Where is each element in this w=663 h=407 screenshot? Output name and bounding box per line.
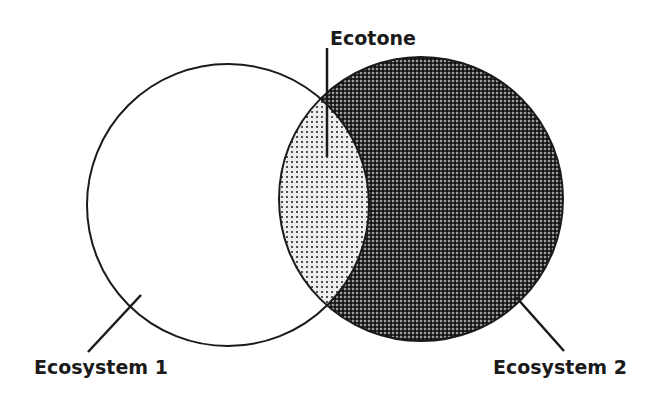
ecosystem-1-leader-line bbox=[88, 295, 141, 352]
ecosystem-1-label: Ecosystem 1 bbox=[34, 356, 168, 378]
ecotone-label: Ecotone bbox=[330, 27, 416, 49]
ecotone-venn-diagram: Ecotone Ecosystem 1 Ecosystem 2 bbox=[0, 0, 663, 407]
ecosystem-2-label: Ecosystem 2 bbox=[493, 356, 627, 378]
ecosystem-2-leader-line bbox=[516, 297, 564, 351]
